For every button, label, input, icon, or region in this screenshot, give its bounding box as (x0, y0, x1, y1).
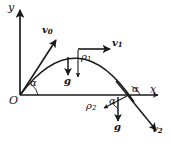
vector-rho1-subscript: 1 (87, 55, 91, 63)
vector-rho1-label: ρ1 (81, 52, 91, 63)
vector-v0-arrow (21, 40, 56, 94)
vector-v2-label: v2 (152, 124, 163, 134)
angle-alpha-landing-left-label: α (109, 96, 116, 106)
vector-rho2-label: ρ2 (86, 101, 96, 112)
x-axis-label: x (150, 84, 156, 95)
vector-v0-label: v0 (42, 25, 53, 35)
figure-canvas (0, 0, 171, 150)
vector-v0-subscript: 0 (48, 27, 53, 36)
projectile-motion-figure: y x O v0 v1 v2 ρ1 ρ2 g g α α α (0, 0, 171, 150)
vector-v2-subscript: 2 (158, 126, 163, 135)
vector-g-apex-label: g (64, 76, 71, 86)
vector-g-landing-label: g (114, 122, 121, 132)
y-axis-label: y (8, 2, 14, 13)
angle-alpha-launch-label: α (30, 78, 37, 88)
vector-v1-subscript: 1 (118, 40, 123, 49)
angle-alpha-landing-right-label: α (132, 84, 139, 94)
vector-v1-label: v1 (112, 38, 123, 48)
origin-label: O (9, 95, 18, 106)
vector-rho2-subscript: 2 (92, 104, 96, 112)
